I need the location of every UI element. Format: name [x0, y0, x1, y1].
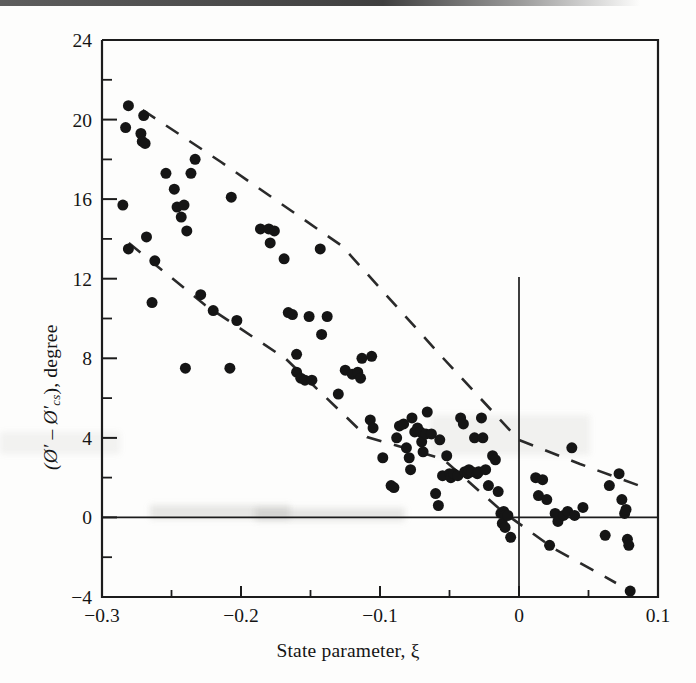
- data-point: [141, 231, 152, 242]
- data-point: [616, 494, 627, 505]
- y-tick-label: 20: [73, 110, 93, 131]
- x-tick-label: 0.1: [646, 605, 670, 626]
- data-point: [405, 464, 416, 475]
- data-point: [269, 225, 280, 236]
- y-tick-label: 0: [82, 507, 92, 528]
- data-point: [315, 243, 326, 254]
- data-point: [477, 432, 488, 443]
- data-point: [231, 315, 242, 326]
- y-tick-label: 12: [73, 269, 93, 290]
- data-point: [279, 253, 290, 264]
- x-axis-title: State parameter, ξ: [0, 640, 696, 662]
- data-point: [493, 486, 504, 497]
- x-axis-major-ticks: [102, 586, 658, 597]
- data-point: [176, 212, 187, 223]
- data-point: [140, 138, 151, 149]
- data-point: [123, 100, 134, 111]
- data-point: [483, 480, 494, 491]
- data-point: [566, 442, 577, 453]
- data-point: [505, 532, 516, 543]
- data-point: [322, 311, 333, 322]
- data-point: [600, 530, 611, 541]
- data-point: [388, 482, 399, 493]
- data-point: [480, 464, 491, 475]
- data-point: [406, 412, 417, 423]
- y-axis-title-subscript: cs: [48, 394, 63, 405]
- data-point: [368, 422, 379, 433]
- x-tick-label: −0.1: [362, 605, 397, 626]
- data-point: [224, 363, 235, 374]
- data-point: [179, 200, 190, 211]
- y-tick-label: −4: [71, 587, 92, 608]
- data-point: [625, 586, 636, 597]
- x-tick-label: 0: [514, 605, 524, 626]
- figure-root: −0.3 −0.2 −0.1 0 0.1 24 20 16 12 8 4 0 −…: [0, 0, 696, 683]
- data-point: [621, 504, 632, 515]
- data-point: [355, 373, 366, 384]
- data-point: [418, 446, 429, 457]
- data-point: [537, 474, 548, 485]
- data-point: [458, 418, 469, 429]
- y-tick-label: 24: [73, 30, 93, 51]
- data-point: [377, 452, 388, 463]
- data-point: [430, 488, 441, 499]
- data-point: [185, 168, 196, 179]
- data-point: [614, 468, 625, 479]
- y-tick-label: 16: [73, 189, 93, 210]
- y-axis-title-suffix: ), degree: [40, 324, 61, 394]
- data-point: [149, 255, 160, 266]
- data-point: [391, 432, 402, 443]
- y-tick-label: 4: [82, 428, 92, 449]
- data-point: [147, 297, 158, 308]
- data-point: [304, 311, 315, 322]
- scatter-plot-canvas: −0.3 −0.2 −0.1 0 0.1 24 20 16 12 8 4 0 −…: [0, 0, 696, 683]
- data-point: [195, 289, 206, 300]
- y-axis-title-prefix: (Ø′ – Ø′: [40, 406, 61, 470]
- data-point: [441, 450, 452, 461]
- data-point: [490, 454, 501, 465]
- data-point: [333, 389, 344, 400]
- data-point: [433, 500, 444, 511]
- data-point: [541, 494, 552, 505]
- x-axis-tick-labels: −0.3 −0.2 −0.1 0 0.1: [84, 605, 670, 626]
- data-point: [476, 412, 487, 423]
- data-point: [208, 305, 219, 316]
- data-point: [226, 192, 237, 203]
- x-tick-label: −0.2: [223, 605, 258, 626]
- scatter-points-layer: [117, 100, 635, 596]
- data-point: [434, 434, 445, 445]
- data-point: [180, 363, 191, 374]
- data-point: [190, 154, 201, 165]
- y-axis-minor-ticks: [102, 80, 112, 557]
- x-tick-label: −0.3: [84, 605, 119, 626]
- data-point: [544, 540, 555, 551]
- data-point: [316, 329, 327, 340]
- data-point: [604, 480, 615, 491]
- x-axis-title-text: State parameter, ξ: [276, 640, 419, 661]
- data-point: [291, 349, 302, 360]
- data-point: [287, 309, 298, 320]
- data-point: [623, 540, 634, 551]
- data-point: [117, 200, 128, 211]
- data-point: [120, 122, 131, 133]
- data-point: [123, 243, 134, 254]
- data-point: [181, 225, 192, 236]
- data-point: [356, 353, 367, 364]
- data-point: [169, 184, 180, 195]
- data-point: [577, 502, 588, 513]
- data-point: [404, 452, 415, 463]
- data-point: [502, 510, 513, 521]
- y-tick-label: 8: [82, 348, 92, 369]
- data-point: [422, 407, 433, 418]
- data-point: [366, 351, 377, 362]
- data-point: [500, 522, 511, 533]
- y-axis-tick-labels: 24 20 16 12 8 4 0 −4: [71, 30, 92, 608]
- data-point: [160, 168, 171, 179]
- data-point: [569, 510, 580, 521]
- y-axis-title: (Ø′ – Ø′cs), degree: [40, 324, 64, 470]
- upper-bound-dashed-line: [143, 110, 643, 630]
- data-point: [138, 110, 149, 121]
- data-point: [265, 237, 276, 248]
- data-point: [401, 442, 412, 453]
- data-point: [306, 375, 317, 386]
